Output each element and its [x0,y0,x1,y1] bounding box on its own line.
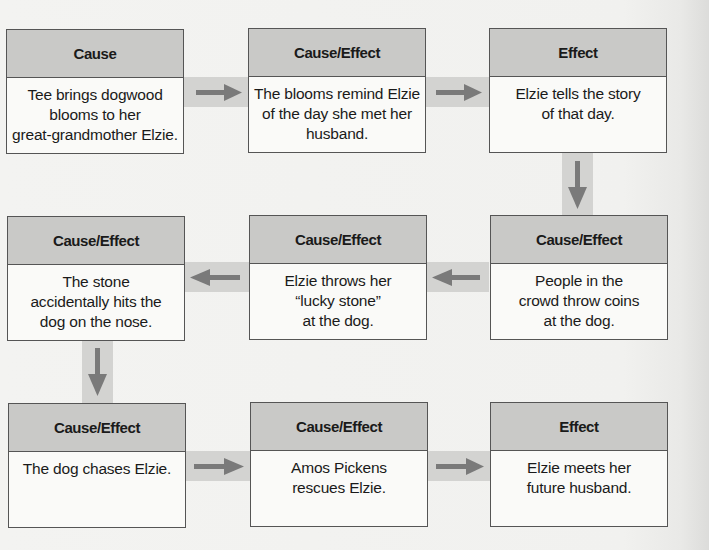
box-label: Cause/Effect [251,403,427,451]
connector-3-to-4 [562,153,593,217]
box-cause-tee-brings-blooms: Cause Tee brings dogwood blooms to her g… [6,29,184,154]
box-text: Elzie meets her future husband. [491,451,667,526]
box-effect-elzie-meets-husband: Effect Elzie meets her future husband. [490,402,668,527]
box-effect-elzie-tells-story: Effect Elzie tells the story of that day… [489,28,667,153]
box-text: The dog chases Elzie. [9,452,185,527]
box-label: Effect [491,403,667,451]
connector-2-to-3 [426,77,489,107]
box-label: Cause [7,30,183,78]
box-text: Elzie tells the story of that day. [490,77,666,152]
connector-7-to-8 [186,451,251,481]
arrow-down-icon [562,153,593,217]
box-stone-hits-dog: Cause/Effect The stone accidentally hits… [7,216,185,341]
box-text: People in the crowd throw coins at the d… [491,264,667,339]
arrow-right-icon [186,451,251,481]
arrow-right-icon [426,77,489,107]
connector-4-to-5 [426,262,489,292]
box-amos-rescues-elzie: Cause/Effect Amos Pickens rescues Elzie. [250,402,428,527]
arrow-right-icon [184,77,249,107]
arrow-right-icon [428,451,491,481]
box-text: The blooms remind Elzie of the day she m… [249,77,425,152]
box-elzie-throws-stone: Cause/Effect Elzie throws her “lucky sto… [249,215,427,340]
connector-6-to-7 [82,340,113,404]
cause-effect-flowchart: Cause Tee brings dogwood blooms to her g… [0,0,709,550]
box-text: Amos Pickens rescues Elzie. [251,451,427,526]
box-text: The stone accidentally hits the dog on t… [8,265,184,340]
box-dog-chases-elzie: Cause/Effect The dog chases Elzie. [8,403,186,528]
connector-1-to-2 [184,77,249,107]
box-label: Cause/Effect [491,216,667,264]
box-blooms-remind-elzie: Cause/Effect The blooms remind Elzie of … [248,28,426,153]
box-crowd-throws-coins: Cause/Effect People in the crowd throw c… [490,215,668,340]
box-text: Elzie throws her “lucky stone” at the do… [250,264,426,339]
box-label: Cause/Effect [8,217,184,265]
box-label: Effect [490,29,666,77]
connector-5-to-6 [184,262,249,292]
arrow-left-icon [184,262,249,292]
connector-8-to-9 [428,451,491,481]
box-label: Cause/Effect [9,404,185,452]
box-label: Cause/Effect [250,216,426,264]
box-label: Cause/Effect [249,29,425,77]
box-text: Tee brings dogwood blooms to her great-g… [7,78,183,153]
arrow-left-icon [426,262,489,292]
arrow-down-icon [82,340,113,404]
